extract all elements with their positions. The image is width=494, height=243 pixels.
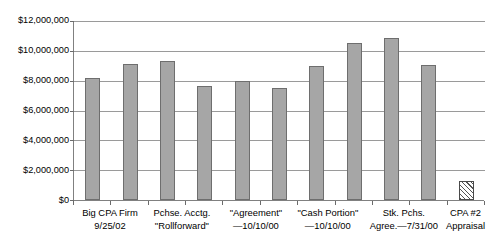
bar xyxy=(459,181,474,200)
x-axis-tick xyxy=(297,201,298,205)
x-axis-tick xyxy=(73,201,74,205)
x-axis-group-label-line2: —10/10/00 xyxy=(297,220,358,233)
bar xyxy=(272,88,287,200)
y-axis-tick-label: $8,000,000 xyxy=(0,76,69,85)
y-axis-tick-label: $6,000,000 xyxy=(0,106,69,115)
x-axis-group-label-line2: Agree.—7/31/00 xyxy=(370,220,438,233)
x-axis-group-label-line2: "Rollforward" xyxy=(154,220,211,233)
x-axis-group-label: Pchse. Acctg."Rollforward" xyxy=(154,207,211,232)
bar xyxy=(384,38,399,200)
y-axis-tick-label: $4,000,000 xyxy=(0,136,69,145)
x-axis-tick xyxy=(185,201,186,205)
x-axis-tick xyxy=(409,201,410,205)
x-axis-ticks xyxy=(73,201,484,206)
x-axis-group-label-line2: —10/10/00 xyxy=(230,220,283,233)
x-axis-group-label-line1: Big CPA Firm xyxy=(82,207,138,218)
x-axis-tick xyxy=(335,201,336,205)
y-axis-tick-label: $10,000,000 xyxy=(0,46,69,55)
y-axis-labels: $12,000,000 $10,000,000 $8,000,000 $6,00… xyxy=(0,21,69,201)
x-axis-tick xyxy=(110,201,111,205)
x-axis-group-label: "Cash Portion"—10/10/00 xyxy=(297,207,358,232)
x-axis-tick xyxy=(447,201,448,205)
bar xyxy=(85,78,100,200)
x-axis-group-label-line1: Pchse. Acctg. xyxy=(154,207,211,218)
plot-area xyxy=(73,21,484,201)
y-axis-tick-label: $0 xyxy=(0,196,69,205)
bar xyxy=(235,81,250,200)
y-axis-tick-label: $2,000,000 xyxy=(0,166,69,175)
bar xyxy=(123,64,138,200)
x-axis-group-label: Stk. Pchs.Agree.—7/31/00 xyxy=(370,207,438,232)
x-axis-group-label-line2: Appraisal xyxy=(446,220,485,233)
x-axis-group-label-line1: CPA #2 xyxy=(450,207,481,218)
x-axis-tick xyxy=(372,201,373,205)
bar-series xyxy=(74,21,485,200)
x-axis-group-label: CPA #2Appraisal xyxy=(446,207,485,232)
bar xyxy=(347,43,362,200)
x-axis-tick xyxy=(148,201,149,205)
bar xyxy=(160,61,175,200)
x-axis-tick xyxy=(222,201,223,205)
bar xyxy=(421,65,436,200)
bar xyxy=(309,66,324,200)
x-axis-group-label-line1: Stk. Pchs. xyxy=(383,207,425,218)
chart-screenshot: $12,000,000 $10,000,000 $8,000,000 $6,00… xyxy=(0,0,494,243)
x-axis-group-label-line1: "Agreement" xyxy=(230,207,283,218)
x-axis-group-label: "Agreement"—10/10/00 xyxy=(230,207,283,232)
x-axis-labels: Big CPA Firm9/25/02Pchse. Acctg."Rollfor… xyxy=(73,207,484,241)
x-axis-group-label-line2: 9/25/02 xyxy=(82,220,138,233)
x-axis-group-label: Big CPA Firm9/25/02 xyxy=(82,207,138,232)
x-axis-tick xyxy=(484,201,485,205)
x-axis-tick xyxy=(260,201,261,205)
x-axis-group-label-line1: "Cash Portion" xyxy=(297,207,358,218)
bar xyxy=(197,86,212,200)
y-axis-tick-label: $12,000,000 xyxy=(0,16,69,25)
